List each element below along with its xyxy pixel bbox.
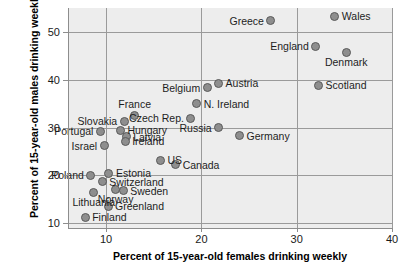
- tick-x-40: [392, 228, 393, 232]
- data-point: [192, 99, 201, 108]
- point-label: Portugal: [54, 126, 93, 137]
- tick-label-y-10: 10: [34, 217, 60, 229]
- point-label: England: [270, 41, 309, 52]
- point-label: Israel: [72, 140, 98, 151]
- y-axis-line: [68, 8, 69, 229]
- point-label: N. Ireland: [204, 98, 250, 109]
- tick-x-20: [201, 228, 202, 232]
- point-label: Lithuania: [72, 197, 115, 208]
- gridline-x-40: [392, 8, 393, 228]
- point-label: Denmark: [325, 57, 368, 68]
- y-axis-title: Percent of 15-year-old males drinking we…: [28, 8, 40, 218]
- point-label: Germany: [247, 130, 290, 141]
- point-label: Belgium: [162, 82, 200, 93]
- tick-y-10: [63, 223, 68, 224]
- data-point: [96, 127, 105, 136]
- point-label: France: [118, 99, 151, 110]
- data-point: [214, 79, 223, 88]
- plot-area: WalesGreeceEnglandDenmarkScotlandAustria…: [68, 8, 392, 228]
- point-label: Canada: [183, 159, 220, 170]
- tick-label-x-10: 10: [91, 233, 121, 245]
- point-label: Finland: [92, 212, 126, 223]
- data-point: [330, 12, 339, 21]
- point-label: Russia: [179, 122, 211, 133]
- data-point: [86, 171, 95, 180]
- x-axis-title: Percent of 15-year-old females drinking …: [68, 250, 392, 262]
- point-label: US: [167, 155, 182, 166]
- data-point: [203, 83, 212, 92]
- data-point: [214, 123, 223, 132]
- point-label: Ireland: [132, 136, 164, 147]
- point-label: Czech Rep.: [129, 113, 184, 124]
- scatter-chart: WalesGreeceEnglandDenmarkScotlandAustria…: [0, 0, 408, 268]
- tick-y-50: [63, 32, 68, 33]
- data-point: [314, 81, 323, 90]
- data-point: [98, 177, 107, 186]
- gridline-x-20: [201, 8, 202, 228]
- data-point: [311, 42, 320, 51]
- point-label: Wales: [342, 11, 371, 22]
- point-label: Austria: [226, 78, 259, 89]
- data-point: [235, 131, 244, 140]
- data-point: [81, 213, 90, 222]
- data-point: [266, 16, 275, 25]
- point-label: Sweden: [130, 185, 168, 196]
- tick-x-30: [297, 228, 298, 232]
- gridline-y-10: [68, 223, 392, 224]
- data-point: [100, 141, 109, 150]
- tick-y-30: [63, 128, 68, 129]
- data-point: [156, 156, 165, 165]
- tick-label-x-30: 30: [282, 233, 312, 245]
- x-axis-line: [68, 228, 393, 229]
- gridline-y-50: [68, 32, 392, 33]
- point-label: Greece: [230, 15, 264, 26]
- data-point: [121, 137, 130, 146]
- tick-x-10: [106, 228, 107, 232]
- tick-label-x-20: 20: [186, 233, 216, 245]
- point-label: Scotland: [326, 80, 367, 91]
- tick-y-20: [63, 175, 68, 176]
- tick-label-x-40: 40: [377, 233, 407, 245]
- tick-y-40: [63, 80, 68, 81]
